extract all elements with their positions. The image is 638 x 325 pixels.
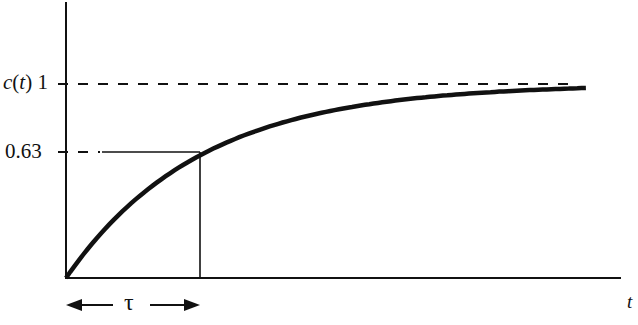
arrow-right-icon bbox=[184, 299, 200, 311]
y-tick-1: 1 bbox=[37, 70, 48, 94]
y-axis-name: c bbox=[3, 70, 12, 94]
tau-label: τ bbox=[124, 290, 134, 314]
arrow-left-icon bbox=[66, 299, 82, 311]
response-curve bbox=[66, 88, 586, 278]
x-axis-label: t bbox=[627, 292, 632, 311]
plot-area bbox=[0, 0, 638, 325]
y-axis-arg: t bbox=[19, 70, 25, 94]
y-axis-label: c(t) 1 bbox=[3, 72, 48, 93]
y-tick-063: 0.63 bbox=[5, 141, 42, 162]
step-response-diagram: c(t) 1 0.63 t τ bbox=[0, 0, 638, 325]
